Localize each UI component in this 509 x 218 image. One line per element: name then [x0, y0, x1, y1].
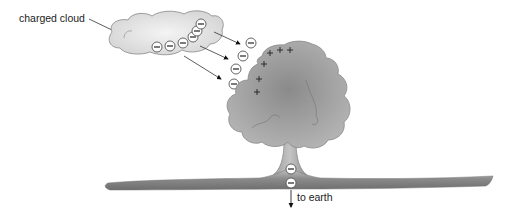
cloud-leader-line: [89, 19, 112, 30]
lightning-charge-diagram: charged cloud: [0, 0, 509, 218]
cloud-label: charged cloud: [19, 12, 85, 24]
negative-charge: [286, 178, 296, 188]
negative-charge: [286, 164, 296, 174]
arrow-icon: [184, 56, 221, 79]
negative-charge: [246, 38, 256, 48]
negative-charge: [238, 51, 248, 61]
negative-charge: [231, 64, 241, 74]
negative-charge: [165, 41, 175, 51]
earth-label: to earth: [297, 191, 333, 203]
arrow-icon: [200, 46, 228, 59]
negative-charge: [152, 42, 162, 52]
negative-charge: [178, 38, 188, 48]
negative-charge: [196, 19, 206, 29]
